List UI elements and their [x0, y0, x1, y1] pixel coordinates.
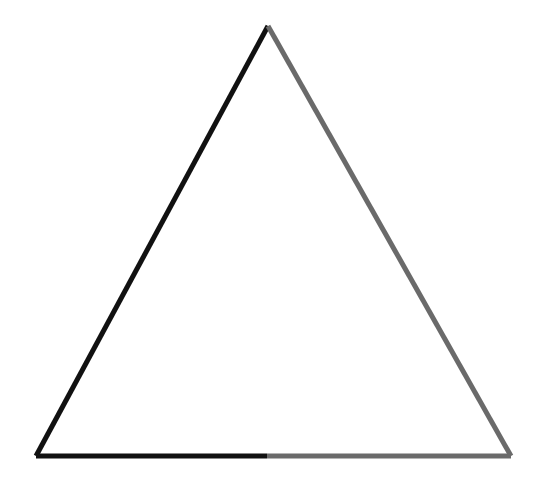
triangle-diagram — [0, 0, 550, 497]
triangle-right-side — [268, 26, 511, 456]
triangle-left-side — [36, 26, 268, 456]
